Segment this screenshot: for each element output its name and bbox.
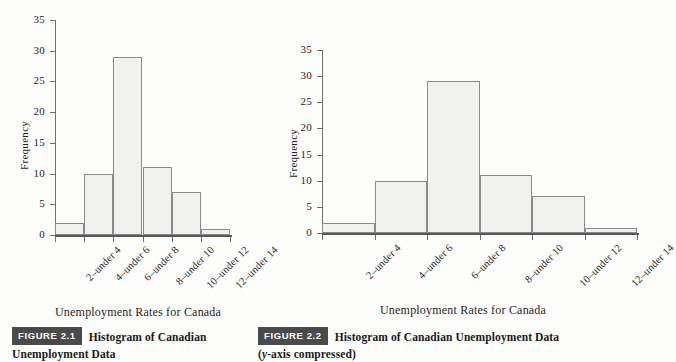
x-axis-category-label: 12–under 14	[629, 242, 676, 289]
x-axis-tick	[143, 237, 144, 242]
x-axis-tick	[84, 237, 85, 242]
histogram-bar	[172, 192, 201, 235]
y-axis-tick	[317, 207, 322, 208]
y-axis-tick	[50, 204, 55, 205]
y-axis-tick-label: 35	[288, 44, 312, 55]
y-axis-tick	[50, 81, 55, 82]
figure-caption-text-2b: (y-axis compressed)	[258, 348, 356, 360]
y-axis-title-2: Frequency	[287, 129, 299, 178]
x-axis-tick	[55, 237, 56, 242]
histogram-bar	[480, 175, 533, 233]
y-axis-line	[322, 50, 323, 233]
histogram-plot-1: 051015202530352–under 44–under 66–under …	[55, 20, 230, 235]
x-axis-tick	[585, 235, 586, 240]
y-axis-tick-label: 30	[21, 45, 45, 56]
y-axis-tick	[50, 174, 55, 175]
y-axis-line	[55, 20, 56, 235]
x-axis-category-label: 10–under 12	[577, 242, 624, 289]
y-axis-tick-label: 0	[21, 229, 45, 240]
y-axis-tick-label: 0	[288, 227, 312, 238]
x-axis-tick	[230, 237, 231, 242]
y-axis-tick	[50, 235, 55, 236]
x-axis-tick	[172, 237, 173, 242]
figure-badge-2: FIGURE 2.2	[258, 327, 328, 345]
y-axis-tick-label: 25	[21, 75, 45, 86]
histogram-bar	[375, 181, 428, 233]
x-axis-tick	[322, 235, 323, 240]
histogram-bar	[113, 57, 142, 235]
figure-2-2: 051015202530352–under 44–under 66–under …	[255, 0, 661, 358]
x-axis-title-1: Unemployment Rates for Canada	[55, 305, 221, 320]
y-axis-tick	[50, 112, 55, 113]
figure-caption-text-1: Histogram of Canadian	[89, 331, 207, 343]
y-axis-tick-label: 20	[21, 106, 45, 117]
x-axis-line	[55, 235, 232, 237]
x-axis-tick	[480, 235, 481, 240]
y-axis-tick	[317, 233, 322, 234]
histogram-bar	[84, 174, 113, 235]
x-axis-tick	[113, 237, 114, 242]
histogram-bar	[322, 223, 375, 233]
y-axis-tick	[317, 155, 322, 156]
figure-caption-text-2: Histogram of Canadian Unemployment Data	[335, 331, 559, 343]
x-axis-line	[322, 233, 639, 235]
y-axis-tick-label: 30	[288, 70, 312, 81]
histogram-bar	[427, 81, 480, 233]
y-axis-tick	[317, 50, 322, 51]
x-axis-tick	[637, 235, 638, 240]
figure-caption-2: FIGURE 2.2Histogram of Canadian Unemploy…	[258, 327, 658, 362]
y-axis-title-1: Frequency	[18, 121, 30, 170]
histogram-bar	[201, 229, 230, 235]
y-axis-tick-label: 5	[21, 198, 45, 209]
x-axis-tick	[201, 237, 202, 242]
figure-caption-text-1b: Unemployment Data	[12, 348, 116, 360]
x-axis-tick	[427, 235, 428, 240]
histogram-bar	[143, 167, 172, 235]
figure-caption-1: FIGURE 2.1Histogram of Canadian Unemploy…	[12, 327, 262, 362]
x-axis-category-label: 8–under 10	[523, 242, 566, 285]
x-axis-category-label: 6–under 8	[469, 242, 508, 281]
histogram-plot-2: 051015202530352–under 44–under 66–under …	[322, 50, 637, 233]
y-axis-tick	[317, 102, 322, 103]
y-axis-tick	[317, 128, 322, 129]
histogram-bar	[55, 223, 84, 235]
x-axis-category-label: 2–under 4	[364, 242, 403, 281]
y-axis-tick-label: 25	[288, 96, 312, 107]
y-axis-tick	[50, 143, 55, 144]
histogram-bar	[532, 196, 585, 233]
y-axis-tick	[317, 76, 322, 77]
figure-badge-1: FIGURE 2.1	[12, 327, 82, 345]
y-axis-tick-label: 5	[288, 201, 312, 212]
histogram-bar	[585, 228, 638, 233]
y-axis-tick	[50, 20, 55, 21]
x-axis-tick	[532, 235, 533, 240]
x-axis-title-2: Unemployment Rates for Canada	[380, 303, 546, 318]
y-axis-tick-label: 35	[21, 14, 45, 25]
x-axis-tick	[375, 235, 376, 240]
x-axis-category-label: 4–under 6	[416, 242, 455, 281]
y-axis-tick	[317, 181, 322, 182]
y-axis-tick	[50, 51, 55, 52]
